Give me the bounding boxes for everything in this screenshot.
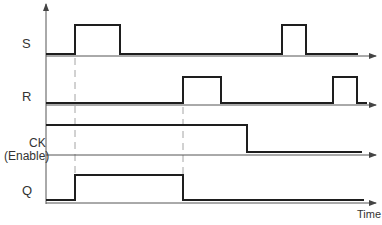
timing-diagram: S R CK (Enable) Q Time bbox=[0, 0, 382, 225]
signal-sublabel-enable: (Enable) bbox=[4, 149, 49, 163]
timing-diagram-svg: S R CK (Enable) Q Time bbox=[0, 0, 382, 225]
x-axis-label-time: Time bbox=[357, 208, 381, 220]
signal-label-r: R bbox=[22, 89, 31, 104]
signal-label-s: S bbox=[22, 36, 31, 51]
signal-q: Q bbox=[22, 175, 376, 203]
signal-label-q: Q bbox=[22, 183, 32, 198]
signal-ck: CK (Enable) bbox=[4, 125, 376, 163]
signal-label-ck: CK bbox=[29, 136, 46, 150]
signal-s: S bbox=[22, 25, 376, 56]
